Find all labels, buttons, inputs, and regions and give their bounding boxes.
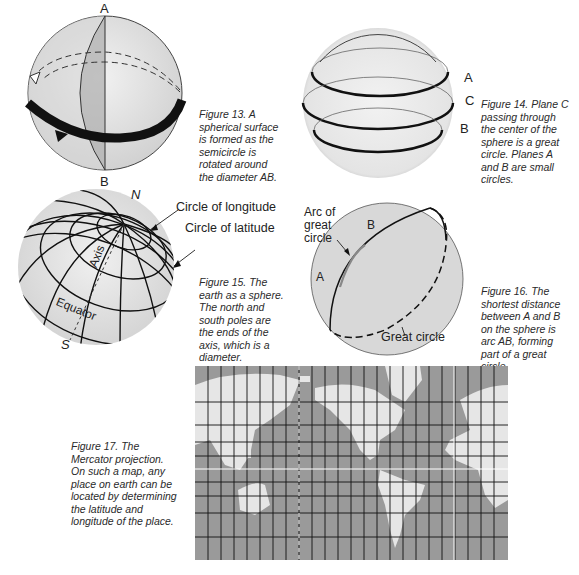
figure-17-caption: Figure 17. The Mercator projection. On s… bbox=[71, 440, 177, 528]
